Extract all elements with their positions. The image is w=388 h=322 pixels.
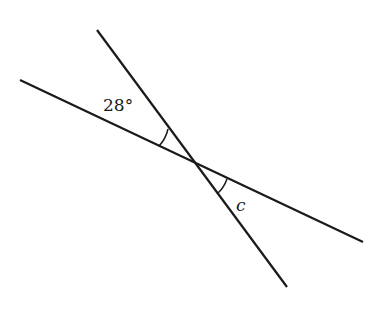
angle-diagram: 28° c: [0, 0, 388, 322]
unknown-angle-label: c: [236, 195, 246, 215]
given-angle-label: 28°: [103, 95, 133, 115]
line-2: [97, 30, 287, 287]
given-angle-arc: [159, 129, 168, 146]
unknown-angle-arc: [217, 179, 227, 194]
line-1: [20, 80, 363, 242]
